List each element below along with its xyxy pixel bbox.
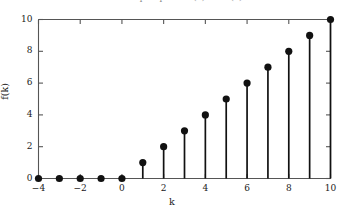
y-tick-label: 6 xyxy=(11,77,33,87)
stem-plot-figure: Unit ramp sequence f(k) = k u(k) f(k) k … xyxy=(0,0,344,213)
y-tick-label: 0 xyxy=(11,173,33,183)
x-tick-label: 8 xyxy=(278,183,300,193)
x-tick-label: −4 xyxy=(28,183,50,193)
y-tick-label: 8 xyxy=(11,45,33,55)
x-tick-label: 0 xyxy=(111,183,133,193)
x-tick-label: 4 xyxy=(194,183,216,193)
y-tick-label: 10 xyxy=(11,14,33,24)
x-tick-label: −2 xyxy=(69,183,91,193)
x-tick-label: 10 xyxy=(320,183,342,193)
y-tick-label: 4 xyxy=(11,109,33,119)
y-tick-label: 2 xyxy=(11,141,33,151)
x-tick-label: 2 xyxy=(153,183,175,193)
plot-area xyxy=(0,0,344,213)
x-tick-label: 6 xyxy=(236,183,258,193)
stem-series xyxy=(35,16,334,182)
